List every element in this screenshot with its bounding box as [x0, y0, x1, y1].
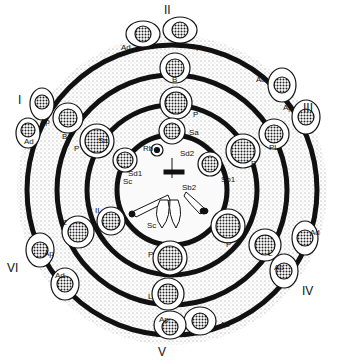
cell-label-b: B — [62, 133, 67, 141]
stage-label-iv: IV — [302, 285, 313, 297]
cell-label-ii: II — [95, 207, 99, 215]
cell-label-pl: PL — [269, 144, 279, 152]
cell-label-p: P — [193, 111, 198, 119]
cell-label-rb: Rb — [143, 145, 153, 153]
cell-label-sb2: Sb2 — [182, 184, 196, 192]
cell-label-p: P — [226, 241, 231, 249]
cell-label-ap: Ap — [191, 43, 201, 51]
cell-label-p: P — [148, 251, 153, 259]
cell-label-sc: Sc — [123, 178, 132, 186]
spermatogenesis-cycle-diagram — [0, 0, 337, 361]
cell-label-sd2: Sd2 — [180, 150, 194, 158]
cell-label-sa: Sa — [98, 137, 108, 145]
cell-label-sa: Sa — [189, 129, 199, 137]
cell-label-l: L — [268, 250, 272, 258]
cell-label-ap: Ap — [274, 264, 284, 272]
cell-label-p: P — [74, 145, 79, 153]
cell-label-ap: Ap — [44, 250, 54, 258]
cell-label-ap: Ap — [159, 316, 169, 324]
cell-label-ad: Ad — [256, 76, 266, 84]
stage-label-vi: VI — [7, 262, 18, 274]
stage-label-iii: III — [303, 102, 313, 114]
stage-label-v: V — [158, 346, 166, 358]
cell-label-b: B — [172, 76, 177, 84]
cell-label-ad: Ad — [121, 44, 131, 52]
cell-label-ap: Ap — [283, 104, 293, 112]
cell-label-ap: Ap — [40, 118, 50, 126]
cell-label-l: L — [148, 293, 152, 301]
cell-label-ad: Ad — [220, 321, 230, 329]
cell-label-sc: Sc — [147, 222, 156, 230]
stage-label-i: I — [18, 94, 21, 106]
cell-label-sb1: Sb1 — [221, 176, 235, 184]
cell-label-p: P — [251, 160, 256, 168]
cell-label-ad: Ad — [310, 229, 320, 237]
cell-label-z: Z — [62, 219, 67, 227]
stage-label-ii: II — [164, 4, 171, 16]
cell-label-ad: Ad — [24, 138, 34, 146]
cell-label-ad: Ad — [55, 272, 65, 280]
